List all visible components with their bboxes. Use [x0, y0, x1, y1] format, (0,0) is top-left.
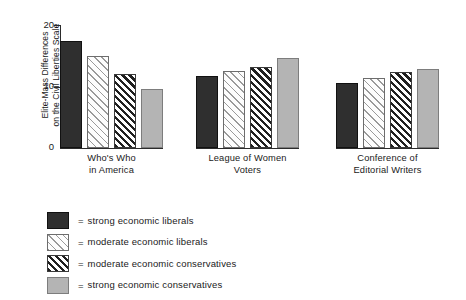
legend-label-strong-economic-liberals: strong economic liberals — [88, 216, 194, 226]
bar-chart: Elite-Mass Differences on the Civil Libe… — [0, 0, 466, 200]
bar-whos-who-moderate-conservatives — [114, 74, 136, 148]
baseline-group-3 — [336, 148, 439, 149]
legend-label-moderate-economic-liberals: moderate economic liberals — [88, 237, 208, 247]
legend-equals-sign-1: = — [78, 216, 84, 226]
legend-label-strong-economic-conservatives: strong economic conservatives — [88, 280, 223, 290]
bar-whos-who-strong-liberals — [60, 41, 82, 148]
bar-group-conference-editorial-writers — [336, 0, 439, 148]
y-tick-label-20: 20 — [34, 20, 54, 30]
legend-swatch-strong-economic-liberals — [47, 212, 69, 229]
legend-swatch-moderate-economic-liberals — [47, 234, 69, 251]
legend-equals-sign-2: = — [78, 238, 84, 248]
bar-cew-moderate-conservatives — [390, 72, 412, 148]
x-axis-label-league-of-women-voters: League of Women Voters — [189, 152, 306, 176]
legend-equals-sign-3: = — [78, 259, 84, 269]
bar-lwv-moderate-conservatives — [250, 67, 272, 148]
chart-legend: = strong economic liberals = moderate ec… — [47, 210, 447, 296]
legend-item-moderate-economic-conservatives: = moderate economic conservatives — [47, 253, 447, 275]
bar-cew-strong-liberals — [336, 83, 358, 148]
legend-equals-sign-4: = — [78, 281, 84, 291]
bar-whos-who-moderate-liberals — [87, 56, 109, 148]
bar-cew-moderate-liberals — [363, 78, 385, 148]
y-tick-label-10: 10 — [34, 81, 54, 91]
baseline-group-1 — [60, 148, 163, 149]
bar-cew-strong-conservatives — [417, 69, 439, 148]
x-label-line-2: Editorial Writers — [329, 164, 446, 176]
bar-lwv-strong-liberals — [196, 76, 218, 148]
legend-item-moderate-economic-liberals: = moderate economic liberals — [47, 232, 447, 254]
legend-item-strong-economic-conservatives: = strong economic conservatives — [47, 275, 447, 297]
x-label-line-2: Voters — [189, 164, 306, 176]
legend-label-moderate-economic-conservatives: moderate economic conservatives — [88, 259, 237, 269]
x-label-line-1: League of Women — [189, 152, 306, 164]
bar-group-league-of-women-voters — [196, 0, 299, 148]
bar-lwv-strong-conservatives — [277, 58, 299, 148]
x-label-line-1: Conference of — [329, 152, 446, 164]
legend-swatch-moderate-economic-conservatives — [47, 255, 69, 272]
x-label-line-1: Who's Who — [60, 152, 163, 164]
x-label-line-2: in America — [60, 164, 163, 176]
baseline-group-2 — [196, 148, 299, 149]
legend-swatch-strong-economic-conservatives — [47, 277, 69, 294]
legend-item-strong-economic-liberals: = strong economic liberals — [47, 210, 447, 232]
bar-whos-who-strong-conservatives — [141, 89, 163, 148]
x-axis-label-conference-editorial-writers: Conference of Editorial Writers — [329, 152, 446, 176]
y-tick-label-0: 0 — [34, 142, 54, 152]
bar-group-whos-who — [60, 0, 163, 148]
x-axis-label-whos-who: Who's Who in America — [60, 152, 163, 176]
bar-lwv-moderate-liberals — [223, 71, 245, 148]
